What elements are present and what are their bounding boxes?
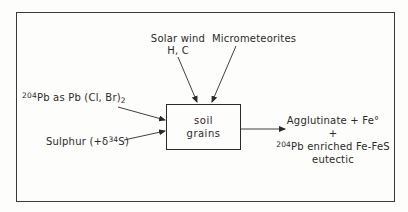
lead-subscript: 2 bbox=[121, 96, 126, 105]
lead-input-label: 204Pb as Pb (Cl, Br)2 bbox=[22, 92, 126, 104]
arrow-solar-wind bbox=[178, 57, 197, 102]
lead-text: Pb as Pb (Cl, Br) bbox=[37, 92, 121, 103]
solar-wind-line1: Solar wind bbox=[138, 33, 218, 45]
solar-wind-line2: H, C bbox=[138, 45, 218, 57]
node-line2: grains bbox=[187, 127, 221, 140]
sulphur-isotope-mass: 34 bbox=[108, 135, 118, 144]
sulphur-input-label: Sulphur (+δ34S) bbox=[46, 136, 129, 148]
solar-wind-label: Solar wind H, C bbox=[138, 33, 218, 57]
output-line1: Agglutinate + Fe° bbox=[268, 114, 398, 127]
lead-isotope-mass: 204 bbox=[22, 91, 37, 100]
output-line2: + bbox=[268, 127, 398, 140]
output-line3: 204Pb enriched Fe-FeS bbox=[268, 140, 398, 153]
node-line1: soil bbox=[194, 114, 213, 127]
micrometeorites-label: Micrometeorites bbox=[212, 33, 296, 45]
arrow-sulphur bbox=[124, 131, 165, 140]
output-isotope-mass: 204 bbox=[276, 140, 291, 149]
output-line3-text: Pb enriched Fe-FeS bbox=[291, 141, 390, 152]
sulphur-prefix: Sulphur (+δ bbox=[46, 136, 108, 147]
output-label: Agglutinate + Fe° + 204Pb enriched Fe-Fe… bbox=[268, 114, 398, 166]
sulphur-suffix: S) bbox=[118, 136, 129, 147]
output-line4: eutectic bbox=[268, 153, 398, 166]
arrow-lead bbox=[118, 107, 165, 120]
soil-grains-node: soil grains bbox=[166, 104, 241, 150]
